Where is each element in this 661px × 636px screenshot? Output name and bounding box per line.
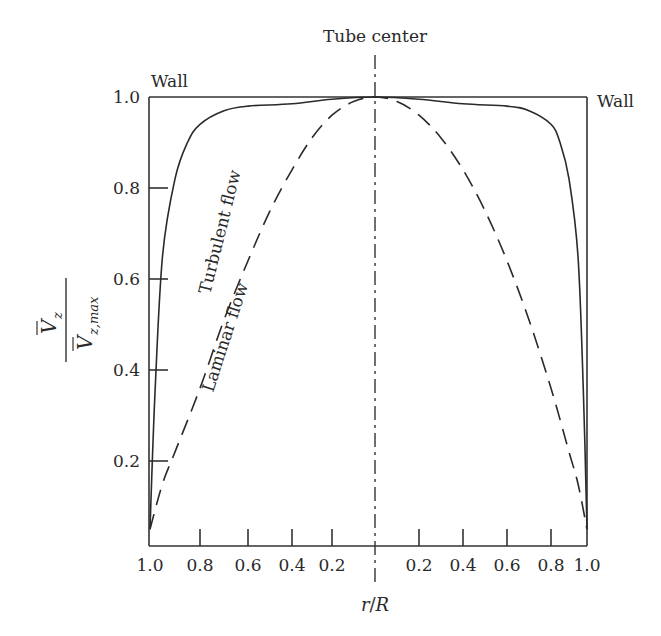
turbulent-flow-curve [150,97,587,529]
x-tick-label: 1.0 [573,555,600,575]
y-axis-label: V z V z,max [37,278,101,362]
x-axis-ticks: 1.00.80.60.40.20.20.40.60.81.0 [136,529,600,575]
y-tick-label: 1.0 [113,87,140,107]
x-tick-label: 0.6 [234,555,261,575]
x-tick-label: 0.4 [278,555,305,575]
velocity-profile-chart: 0.20.40.60.81.0 1.00.80.60.40.20.20.40.6… [0,0,661,636]
y-label-denominator-sub: z,max [86,296,101,336]
x-tick-label: 1.0 [136,555,163,575]
laminar-flow-curve [150,97,587,529]
y-axis-ticks: 0.20.40.60.81.0 [113,87,168,471]
y-tick-label: 0.8 [113,178,140,198]
x-tick-label: 0.8 [186,555,213,575]
x-axis-label: r/R [361,594,389,615]
y-tick-label: 0.6 [113,269,140,289]
tube-center-label: Tube center [323,26,428,46]
x-tick-label: 0.6 [493,555,520,575]
x-tick-label: 0.2 [405,555,432,575]
wall-left-label: Wall [151,71,188,91]
y-label-numerator-sub: z [50,312,65,320]
turbulent-flow-label: Turbulent flow [194,167,244,296]
laminar-flow-label: Laminar flow [198,279,252,394]
x-tick-label: 0.4 [449,555,476,575]
x-label-R: R [375,594,390,615]
wall-right-label: Wall [597,91,634,111]
x-tick-label: 0.2 [318,555,345,575]
y-tick-label: 0.2 [113,451,140,471]
y-tick-label: 0.4 [113,360,140,380]
x-tick-label: 0.8 [537,555,564,575]
